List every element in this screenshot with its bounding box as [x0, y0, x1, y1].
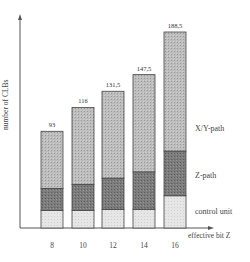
x-tick-label: 12 [102, 241, 124, 250]
bar-segment-x-y-path [72, 107, 94, 184]
bar-segment-control-unit [133, 209, 155, 228]
bar-segment-x-y-path [41, 131, 63, 188]
x-axis-arrow-icon [208, 226, 214, 230]
bar-total-label: 116 [68, 97, 98, 104]
x-tick-label: 8 [41, 241, 63, 250]
legend-control-unit: control unit [195, 207, 232, 216]
bar-total-label: 147,5 [129, 65, 159, 72]
bars-group [41, 32, 186, 228]
bar-segment-z-path [102, 178, 124, 209]
bar-segment-z-path [133, 172, 155, 209]
bar-segment-control-unit [164, 196, 186, 228]
x-tick-label: 10 [72, 241, 94, 250]
x-axis-label: effective bit Z [188, 231, 230, 240]
bar-segment-control-unit [72, 210, 94, 228]
bar-total-label: 131,5 [98, 81, 128, 88]
y-axis-arrow-icon [18, 14, 22, 20]
bar-segment-z-path [72, 184, 94, 210]
bar-segment-x-y-path [164, 32, 186, 151]
bar-segment-x-y-path [102, 91, 124, 178]
x-tick-label: 16 [164, 241, 186, 250]
legend-xy-path: X/Y-path [195, 124, 224, 133]
legend-z-path: Z-path [195, 171, 216, 180]
bar-segment-control-unit [102, 209, 124, 228]
bar-segment-z-path [164, 151, 186, 196]
bar-segment-x-y-path [133, 75, 155, 172]
bar-total-label: 188,5 [160, 22, 190, 29]
bar-segment-z-path [41, 188, 63, 210]
bar-total-label: 93 [37, 121, 67, 128]
x-tick-label: 14 [133, 241, 155, 250]
y-axis-label: number of CLBs [1, 80, 10, 130]
bar-segment-control-unit [41, 210, 63, 228]
